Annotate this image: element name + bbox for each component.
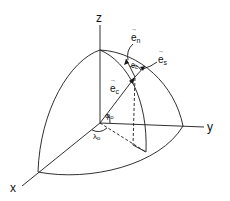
e-c-label: ec: [110, 84, 119, 95]
e-s-sub: s: [164, 59, 168, 66]
e-s-base: e: [158, 54, 164, 65]
projection-foot: [133, 145, 146, 152]
projection-vertical: [133, 78, 135, 145]
y-axis: [100, 123, 204, 127]
projection-ground: [100, 123, 146, 152]
y-axis-label: y: [207, 121, 213, 133]
diagram-canvas: [0, 0, 230, 201]
leader-e-s: [143, 62, 157, 69]
phi-label: φo: [105, 112, 114, 120]
e-c-sub: c: [116, 88, 120, 95]
e-n-sub: n: [137, 37, 141, 44]
lambda-sub: o: [97, 135, 100, 141]
e-n-base: e: [131, 32, 137, 43]
theta-sub: c: [135, 64, 138, 70]
arc-x-to-y: [38, 126, 183, 175]
e-c-base: e: [110, 83, 116, 94]
lambda-label: λo: [93, 133, 100, 141]
x-axis-label: x: [10, 182, 16, 194]
phi-sub: o: [110, 114, 113, 120]
arc-z-to-x: [38, 50, 100, 172]
meridian-arc: [100, 50, 146, 152]
z-axis-label: z: [96, 12, 102, 24]
e-n-label: en: [131, 33, 140, 44]
theta-label: θc: [131, 62, 138, 70]
x-axis: [22, 123, 100, 186]
e-s-label: es: [158, 55, 167, 66]
